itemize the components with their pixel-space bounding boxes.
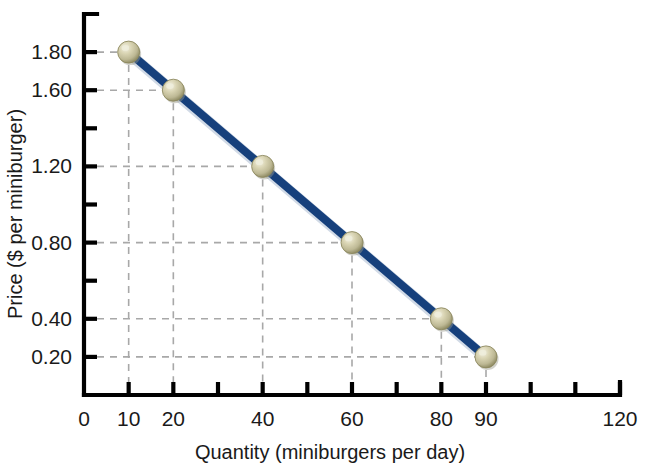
x-tick-label: 20	[162, 407, 185, 430]
data-point-marker	[118, 41, 142, 65]
marker-highlight	[434, 312, 441, 318]
marker-sphere	[430, 308, 452, 330]
marker-sphere	[118, 41, 140, 63]
x-tick-label: 60	[340, 407, 363, 430]
x-tick-label: 10	[117, 407, 140, 430]
marker-sphere	[162, 79, 184, 101]
marker-highlight	[479, 350, 486, 356]
x-tick-label: 0	[78, 407, 90, 430]
tick-marks	[84, 52, 620, 395]
marker-sphere	[252, 155, 274, 177]
y-tick-label: 0.40	[31, 307, 72, 330]
marker-sphere	[475, 346, 497, 368]
demand-curve-chart: 0102040608090120 0.200.400.801.201.601.8…	[0, 0, 646, 466]
data-point-marker	[341, 232, 365, 256]
y-tick-label: 1.80	[31, 40, 72, 63]
y-tick-label: 1.20	[31, 154, 72, 177]
x-tick-label: 80	[430, 407, 453, 430]
data-point-marker	[162, 79, 186, 103]
marker-highlight	[345, 236, 352, 242]
x-tick-label: 40	[251, 407, 274, 430]
marker-highlight	[166, 83, 173, 89]
y-axis-title: Price ($ per miniburger)	[4, 109, 26, 319]
y-tick-label: 1.60	[31, 78, 72, 101]
x-axis-title: Quantity (miniburgers per day)	[195, 441, 465, 463]
marker-highlight	[122, 45, 129, 51]
chart-canvas: 0102040608090120 0.200.400.801.201.601.8…	[0, 0, 646, 466]
marker-highlight	[256, 159, 263, 165]
data-point-marker	[475, 346, 499, 370]
x-axis-tick-labels: 0102040608090120	[78, 407, 637, 430]
marker-sphere	[341, 232, 363, 254]
gridlines	[84, 52, 486, 395]
x-tick-label: 90	[474, 407, 497, 430]
y-axis-tick-labels: 0.200.400.801.201.601.80	[31, 40, 72, 368]
data-point-marker	[252, 155, 276, 179]
y-tick-label: 0.80	[31, 231, 72, 254]
data-point-marker	[430, 308, 454, 332]
y-tick-label: 0.20	[31, 345, 72, 368]
x-tick-label: 120	[602, 407, 637, 430]
